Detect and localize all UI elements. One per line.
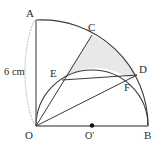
dotted-measure-arc [25,21,34,124]
point-label-b: B [144,130,151,141]
point-label-c: C [88,22,95,33]
segment-ed [62,75,137,80]
geometry-figure: A C D E F O O' B 6 cm [0,0,160,147]
point-label-f: F [124,82,130,93]
dimension-label-6cm: 6 cm [4,67,25,78]
point-label-d: D [139,64,147,75]
point-marker-o-prime [90,123,94,127]
point-label-o-prime: O' [85,131,94,141]
point-label-a: A [26,8,34,19]
point-label-o: O [25,130,33,141]
point-label-e: E [50,68,57,79]
